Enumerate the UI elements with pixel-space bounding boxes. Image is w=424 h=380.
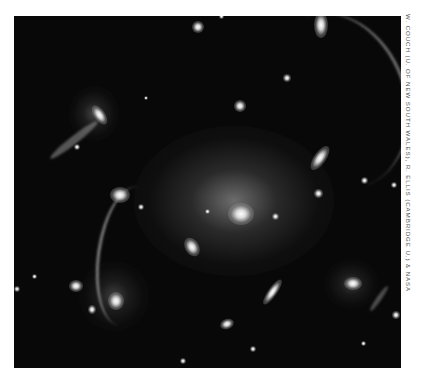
star-top-mid-small <box>219 16 224 19</box>
star-left-2 <box>74 144 80 150</box>
galaxy-lower-left-1 <box>69 280 83 292</box>
galaxy-lower-left-2 <box>108 292 124 310</box>
star-bottom-left <box>32 274 37 279</box>
star-left-1 <box>138 204 144 210</box>
star-top-left-small <box>144 96 148 100</box>
galaxy-lower-left-3 <box>88 305 96 314</box>
galaxy-bottom <box>219 317 236 331</box>
star-right-2 <box>361 177 368 184</box>
galaxy-cluster-photo <box>14 16 401 368</box>
star-edge-right <box>392 311 400 319</box>
star-center-right <box>272 213 279 220</box>
star-upper-right-1 <box>391 182 397 188</box>
star-right-1 <box>314 189 323 198</box>
star-bottom-right-small <box>361 341 366 346</box>
star-top-1 <box>192 21 204 33</box>
galaxy-left-mid <box>110 187 130 203</box>
star-mid-1 <box>234 100 246 112</box>
star-left-edge <box>14 286 20 292</box>
star-bottom-1 <box>180 358 186 364</box>
star-bottom-2 <box>250 346 256 352</box>
star-mid-2 <box>283 74 291 82</box>
star-center-left <box>205 209 210 214</box>
central-galaxy <box>228 203 254 225</box>
photo-credit: W. COUCH (U. OF NEW SOUTH WALES), R. ELL… <box>405 14 412 292</box>
galaxy-bottom-center <box>260 277 285 307</box>
galaxy-right-lower <box>344 277 362 290</box>
